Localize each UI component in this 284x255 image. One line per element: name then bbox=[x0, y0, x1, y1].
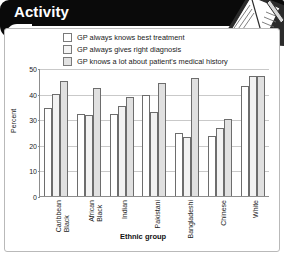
y-tick-label: 30 bbox=[29, 117, 37, 124]
x-tick-label: Chinese bbox=[220, 200, 228, 226]
y-tick-label: 50 bbox=[29, 66, 37, 73]
x-tick-label-line: White bbox=[252, 200, 259, 218]
bar-group bbox=[110, 69, 134, 196]
legend-swatch-icon bbox=[63, 45, 72, 54]
x-tick-label-slot: White bbox=[238, 198, 266, 255]
y-tick-label: 0 bbox=[33, 194, 37, 201]
bar bbox=[191, 78, 199, 196]
bar bbox=[126, 97, 134, 196]
x-tick-label-line: Pakistani bbox=[154, 200, 161, 228]
y-tick-label: 40 bbox=[29, 91, 37, 98]
legend-label: GP always knows best treatment bbox=[77, 33, 185, 42]
page-title: Activity bbox=[14, 3, 69, 20]
bar bbox=[249, 76, 257, 196]
legend-label: GP always gives right diagnosis bbox=[77, 45, 181, 54]
bar bbox=[110, 114, 118, 196]
bar bbox=[44, 108, 52, 196]
bar bbox=[93, 88, 101, 196]
bar bbox=[257, 76, 265, 196]
bar bbox=[60, 81, 68, 196]
legend-swatch-icon bbox=[63, 33, 72, 42]
bar bbox=[216, 128, 224, 196]
bar bbox=[77, 114, 85, 196]
x-tick-label-line: Indian bbox=[121, 200, 128, 219]
y-axis-title: Percent bbox=[10, 109, 17, 133]
y-tick-label: 10 bbox=[29, 168, 37, 175]
x-axis-title: Ethnic group bbox=[5, 232, 281, 241]
legend-item: GP always knows best treatment bbox=[63, 32, 273, 43]
x-tick-label: White bbox=[252, 200, 260, 218]
bar-group bbox=[241, 69, 265, 196]
x-tick-label-slot: Pakistani bbox=[140, 198, 168, 255]
y-tick-label: 20 bbox=[29, 142, 37, 149]
legend-swatch-icon bbox=[63, 57, 72, 66]
x-tick-label-slot: BlackCaribbean bbox=[41, 198, 69, 255]
bar bbox=[224, 119, 232, 196]
bar bbox=[142, 95, 150, 196]
bar-series-container bbox=[40, 69, 269, 196]
x-tick-label-line: Black bbox=[63, 200, 71, 232]
x-tick-label: Pakistani bbox=[154, 200, 162, 228]
chart-card: GP always knows best treatment GP always… bbox=[4, 28, 280, 252]
bar bbox=[183, 137, 191, 196]
x-tick-label-slot: BlackAfrican bbox=[74, 198, 102, 255]
legend-label: GP knows a lot about patient's medical h… bbox=[77, 57, 228, 66]
x-tick-label-slot: Indian bbox=[107, 198, 135, 255]
bar-group bbox=[175, 69, 199, 196]
plot-area: 01020304050 bbox=[39, 69, 269, 197]
bar bbox=[85, 115, 93, 196]
x-tick-label: Indian bbox=[121, 200, 129, 219]
x-tick-label-line: Black bbox=[96, 200, 104, 222]
bar-group bbox=[208, 69, 232, 196]
x-tick-label-line: Chinese bbox=[220, 200, 227, 226]
chart-legend: GP always knows best treatment GP always… bbox=[63, 32, 273, 68]
bar bbox=[208, 136, 216, 196]
bar bbox=[241, 86, 249, 196]
legend-item: GP always gives right diagnosis bbox=[63, 44, 273, 55]
bar bbox=[175, 133, 183, 196]
bar-group bbox=[77, 69, 101, 196]
legend-item: GP knows a lot about patient's medical h… bbox=[63, 56, 273, 67]
x-tick-label-slot: Bangladeshi bbox=[173, 198, 201, 255]
bar bbox=[150, 112, 158, 196]
x-tick-labels: BlackCaribbeanBlackAfricanIndianPakistan… bbox=[39, 198, 269, 255]
bar bbox=[158, 83, 166, 196]
bar-group bbox=[142, 69, 166, 196]
bar bbox=[52, 94, 60, 196]
activity-chart-page: Activity bbox=[0, 0, 284, 255]
x-tick-label: BlackAfrican bbox=[88, 200, 104, 222]
bar bbox=[118, 106, 126, 196]
x-tick-label-slot: Chinese bbox=[206, 198, 234, 255]
x-tick-label: BlackCaribbean bbox=[55, 200, 71, 232]
bar-group bbox=[44, 69, 68, 196]
